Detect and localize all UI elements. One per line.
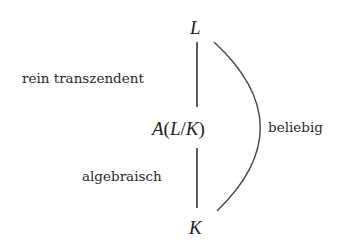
node-bottom-label: K: [189, 217, 202, 238]
node-middle-func: A: [152, 118, 164, 139]
node-middle-top-field: L: [170, 118, 181, 139]
node-middle-bottom-field: K: [186, 118, 199, 139]
edge-label-beliebig: beliebig: [268, 121, 323, 135]
node-bottom-K: K: [189, 218, 202, 237]
node-middle-close-paren: ): [198, 118, 204, 139]
node-middle-A: A(L/K): [152, 119, 205, 138]
edge-label-algebraisch: algebraisch: [82, 170, 162, 184]
node-top-L: L: [190, 18, 201, 37]
field-extension-diagram: L A(L/K) K rein transzendent algebraisch…: [0, 0, 357, 249]
edge-label-rein-transzendent: rein transzendent: [22, 72, 144, 86]
node-top-label: L: [190, 17, 201, 38]
edge-bottom-to-top-arc: [214, 42, 260, 211]
